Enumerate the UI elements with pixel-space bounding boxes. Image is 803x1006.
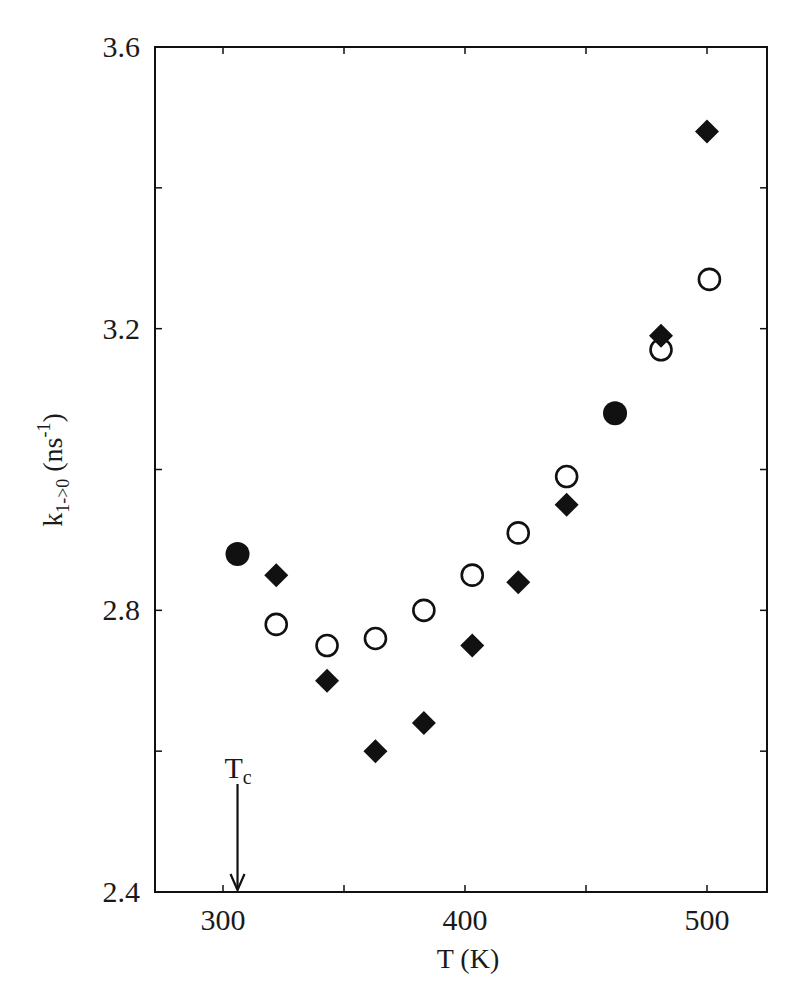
x-tick-label: 300 bbox=[201, 903, 246, 936]
filled-diamond-marker bbox=[506, 570, 530, 594]
filled-circle-marker bbox=[603, 401, 627, 425]
y-axis-label-base: k bbox=[37, 513, 68, 527]
filled-circle-marker bbox=[226, 542, 250, 566]
y-axis-label-superscript: -1 bbox=[34, 422, 54, 437]
open-circle-marker bbox=[462, 565, 483, 586]
open-circle-marker bbox=[699, 269, 720, 290]
open-circle-marker bbox=[413, 600, 434, 621]
filled-diamond-marker bbox=[412, 711, 436, 735]
y-axis-label-close: ) bbox=[37, 413, 68, 422]
x-tick-label: 500 bbox=[685, 903, 730, 936]
filled-diamond-marker bbox=[695, 120, 719, 144]
filled-diamond-marker bbox=[264, 563, 288, 587]
y-tick-label: 2.8 bbox=[103, 593, 141, 626]
y-tick-label: 3.2 bbox=[103, 312, 141, 345]
tc-label-base: T bbox=[225, 751, 243, 784]
x-axis-label: T (K) bbox=[437, 943, 499, 974]
open-circle-marker bbox=[556, 466, 577, 487]
scatter-chart: 3004005002.42.83.23.6 Tc T (K) k1->0 (ns… bbox=[0, 0, 803, 1006]
filled-diamond-marker bbox=[460, 634, 484, 658]
y-tick-label: 2.4 bbox=[103, 875, 141, 908]
annotations: Tc bbox=[225, 751, 252, 890]
open-circle-marker bbox=[508, 522, 529, 543]
y-axis-label: k1->0 (ns-1) bbox=[34, 413, 73, 527]
series-open-circles bbox=[266, 269, 720, 656]
axis-tick-labels: 3004005002.42.83.23.6 bbox=[103, 30, 730, 936]
y-tick-label: 3.6 bbox=[103, 30, 141, 63]
y-axis-label-unit: (ns bbox=[37, 437, 68, 478]
series-filled-circles bbox=[226, 401, 628, 566]
filled-diamond-marker bbox=[315, 669, 339, 693]
series-filled-diamonds bbox=[264, 120, 719, 764]
data-points bbox=[226, 120, 720, 764]
y-axis-label-subscript: 1->0 bbox=[53, 479, 73, 513]
svg-text:k1->0 (ns-1): k1->0 (ns-1) bbox=[34, 413, 73, 527]
open-circle-marker bbox=[266, 614, 287, 635]
tc-label-subscript: c bbox=[243, 766, 252, 788]
open-circle-marker bbox=[365, 628, 386, 649]
tc-label: Tc bbox=[225, 751, 252, 788]
open-circle-marker bbox=[317, 635, 338, 656]
filled-diamond-marker bbox=[555, 493, 579, 517]
x-tick-label: 400 bbox=[443, 903, 488, 936]
filled-diamond-marker bbox=[363, 739, 387, 763]
